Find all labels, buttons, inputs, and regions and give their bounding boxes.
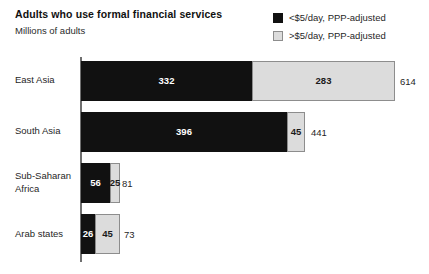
category-label-east-asia: East Asia bbox=[15, 74, 55, 87]
bar-value-light-south-asia: 45 bbox=[291, 127, 302, 137]
category-label-sub-saharan-africa: Sub-Saharan Africa bbox=[15, 170, 71, 195]
bar-total-sub-saharan-africa: 81 bbox=[122, 163, 133, 203]
chart-title: Adults who use formal financial services bbox=[15, 8, 222, 20]
bar-total-south-asia: 441 bbox=[311, 112, 327, 152]
bar-segment-light-sub-saharan-africa: 25 bbox=[110, 163, 120, 203]
bar-segment-dark-arab-states: 26 bbox=[81, 214, 95, 254]
bar-value-light-east-asia: 283 bbox=[316, 76, 332, 86]
bar-value-dark-south-asia: 396 bbox=[176, 127, 192, 137]
bar-row-sub-saharan-africa: 56 25 bbox=[81, 163, 120, 203]
bar-total-east-asia: 614 bbox=[400, 61, 416, 101]
legend-label-below-5-day: <$5/day, PPP-adjusted bbox=[289, 13, 386, 23]
legend-item-above-5-day: >$5/day, PPP-adjusted bbox=[273, 28, 429, 43]
bar-total-arab-states: 73 bbox=[124, 214, 135, 254]
category-label-arab-states: Arab states bbox=[15, 228, 63, 241]
bar-row-arab-states: 26 45 bbox=[81, 214, 120, 254]
category-label-south-asia: South Asia bbox=[15, 125, 60, 138]
bar-value-dark-sub-saharan-africa: 56 bbox=[90, 178, 101, 188]
legend-item-below-5-day: <$5/day, PPP-adjusted bbox=[273, 10, 429, 25]
bar-value-light-sub-saharan-africa: 25 bbox=[110, 178, 121, 188]
bar-value-dark-arab-states: 26 bbox=[83, 229, 94, 239]
bar-segment-dark-south-asia: 396 bbox=[81, 112, 287, 152]
chart-subtitle: Millions of adults bbox=[15, 25, 85, 36]
chart-legend: <$5/day, PPP-adjusted >$5/day, PPP-adjus… bbox=[273, 10, 429, 46]
bar-row-east-asia: 332 283 bbox=[81, 61, 395, 101]
bar-row-south-asia: 396 45 bbox=[81, 112, 305, 152]
legend-label-above-5-day: >$5/day, PPP-adjusted bbox=[289, 31, 386, 41]
bar-segment-light-east-asia: 283 bbox=[252, 61, 395, 101]
bar-value-dark-east-asia: 332 bbox=[159, 76, 175, 86]
chart-container: Adults who use formal financial services… bbox=[0, 0, 429, 274]
bar-segment-dark-east-asia: 332 bbox=[81, 61, 252, 101]
legend-swatch-dark-icon bbox=[273, 13, 283, 23]
bar-segment-dark-sub-saharan-africa: 56 bbox=[81, 163, 110, 203]
bar-segment-light-south-asia: 45 bbox=[287, 112, 305, 152]
legend-swatch-light-icon bbox=[273, 31, 283, 41]
bar-segment-light-arab-states: 45 bbox=[95, 214, 120, 254]
bar-value-light-arab-states: 45 bbox=[102, 229, 113, 239]
